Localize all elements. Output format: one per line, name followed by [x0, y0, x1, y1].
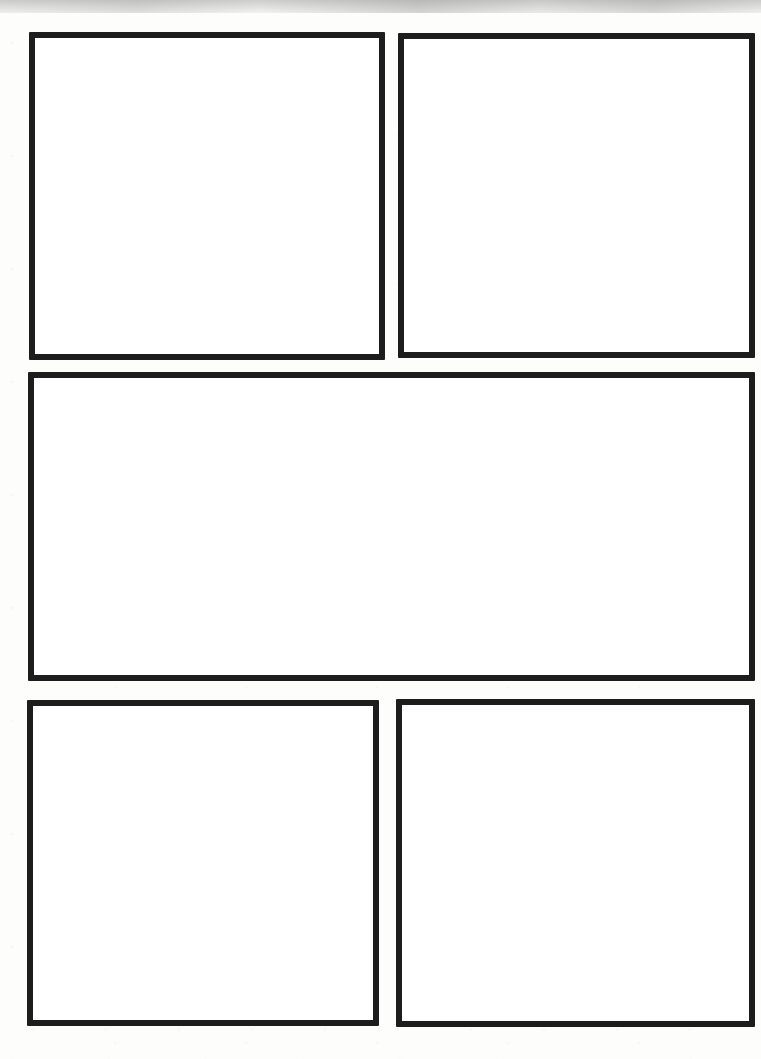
comic-panel-top-right — [398, 33, 755, 358]
comic-panel-bottom-left — [27, 700, 379, 1026]
scan-noise-band — [0, 0, 761, 13]
comic-panel-middle-wide — [28, 372, 755, 681]
comic-panel-bottom-right — [396, 699, 755, 1027]
comic-page — [0, 0, 761, 1059]
comic-panel-top-left — [29, 32, 385, 360]
